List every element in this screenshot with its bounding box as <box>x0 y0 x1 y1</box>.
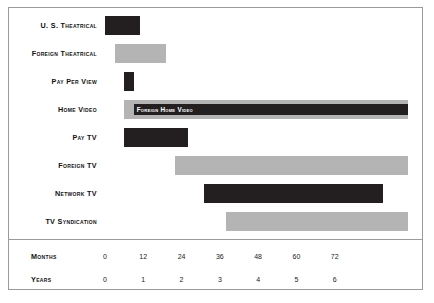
axis-tick-years: 0 <box>93 269 117 291</box>
axis-tick-months: 24 <box>170 246 194 268</box>
axis-tick-months: 48 <box>246 246 270 268</box>
axis-name-years: Years <box>31 269 51 291</box>
axis-tick-months: 60 <box>284 246 308 268</box>
chart-row: Foreign Theatrical <box>9 40 422 68</box>
bar-u-s-theatrical <box>105 16 140 35</box>
bar-foreign-home-video: Foreign Home Video <box>134 104 408 115</box>
axis-tick-years: 2 <box>170 269 194 291</box>
axis-row-years: Years 0123456 <box>9 269 422 291</box>
axis-tick-years: 3 <box>208 269 232 291</box>
axis-tick-years: 5 <box>284 269 308 291</box>
row-label: Foreign TV <box>9 152 97 180</box>
row-label: U. S. Theatrical <box>9 12 97 40</box>
axis-tick-months: 36 <box>208 246 232 268</box>
chart-row: Pay TV <box>9 124 422 152</box>
bar-pay-tv <box>124 128 188 147</box>
bar-network-tv <box>204 184 383 203</box>
axis-divider <box>9 239 422 240</box>
row-label: Pay TV <box>9 124 97 152</box>
row-label: Pay Per View <box>9 68 97 96</box>
chart-row: TV Syndication <box>9 208 422 236</box>
axis-name-months: Months <box>31 246 57 268</box>
row-label: TV Syndication <box>9 208 97 236</box>
bar-foreign-tv <box>175 156 408 175</box>
chart-row: Home VideoForeign Home Video <box>9 96 422 124</box>
chart-frame: U. S. TheatricalForeign TheatricalPay Pe… <box>8 7 423 290</box>
chart-row: Foreign TV <box>9 152 422 180</box>
bar-tv-syndication <box>226 212 408 231</box>
bar-pay-per-view <box>124 72 134 91</box>
row-label: Network TV <box>9 180 97 208</box>
axis-tick-years: 6 <box>323 269 347 291</box>
chart-row: Network TV <box>9 180 422 208</box>
axis-tick-years: 4 <box>246 269 270 291</box>
chart-row: U. S. Theatrical <box>9 12 422 40</box>
chart-row: Pay Per View <box>9 68 422 96</box>
row-label: Foreign Theatrical <box>9 40 97 68</box>
row-label: Home Video <box>9 96 97 124</box>
axis-row-months: Months 0122436486072 <box>9 246 422 268</box>
bar-foreign-theatrical <box>115 44 166 63</box>
axis-tick-months: 0 <box>93 246 117 268</box>
axis-tick-months: 72 <box>323 246 347 268</box>
axis-tick-years: 1 <box>131 269 155 291</box>
axis-tick-months: 12 <box>131 246 155 268</box>
